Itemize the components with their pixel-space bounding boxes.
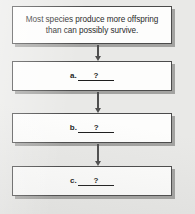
blank-label-a: a. ? xyxy=(70,71,114,81)
blank-letter-a: a. xyxy=(70,71,77,80)
connector-statement-to-a xyxy=(0,45,195,61)
blank-rule-a: ? xyxy=(78,71,114,81)
statement-line-1: Most species produce more offspring xyxy=(26,15,158,24)
down-arrow-icon xyxy=(95,45,101,61)
flowchart-diagram: Most species produce more offspring than… xyxy=(0,0,195,214)
blank-letter-b: b. xyxy=(70,123,77,132)
flowchart-node-statement: Most species produce more offspring than… xyxy=(12,6,172,44)
blank-letter-c: c. xyxy=(70,176,77,185)
blank-label-c: c. ? xyxy=(70,176,114,186)
arrow-stem xyxy=(97,92,98,108)
connector-b-to-c xyxy=(0,144,195,166)
arrow-stem xyxy=(97,144,98,161)
flowchart-node-b: b. ? xyxy=(12,113,172,143)
blank-label-b: b. ? xyxy=(70,123,114,133)
statement-line-2: than can possibly survive. xyxy=(46,26,138,35)
connector-a-to-b xyxy=(0,92,195,113)
down-arrow-icon xyxy=(95,144,101,166)
flowchart-node-c: c. ? xyxy=(12,166,172,196)
blank-rule-c: ? xyxy=(78,176,114,186)
down-arrow-icon xyxy=(95,92,101,113)
blank-rule-b: ? xyxy=(78,123,114,133)
arrow-stem xyxy=(97,45,98,56)
flowchart-node-a: a. ? xyxy=(12,61,172,91)
statement-text: Most species produce more offspring than… xyxy=(16,14,168,37)
